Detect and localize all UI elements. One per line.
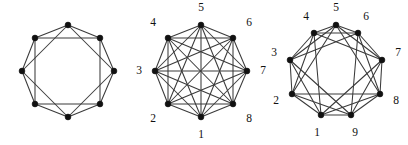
graph-edge bbox=[358, 33, 382, 60]
vertex-label: 1 bbox=[198, 128, 204, 140]
graph-vertex bbox=[111, 68, 117, 74]
graph-vertex bbox=[311, 30, 317, 36]
graph-vertex bbox=[355, 30, 361, 36]
graph-vertex bbox=[165, 35, 171, 41]
vertex-label: 6 bbox=[246, 16, 252, 28]
vertex-label: 7 bbox=[395, 46, 401, 58]
graph-edge bbox=[22, 71, 68, 117]
vertex-label: 3 bbox=[271, 46, 277, 58]
graph-edge bbox=[68, 71, 114, 117]
figure-3-edge-group bbox=[290, 25, 382, 115]
graph-vertex bbox=[348, 112, 354, 118]
graph-vertex bbox=[152, 68, 158, 74]
graph-vertex bbox=[318, 112, 324, 118]
graph-edge bbox=[22, 71, 35, 104]
graph-vertex bbox=[379, 57, 385, 63]
vertex-label: 6 bbox=[363, 10, 369, 22]
graph-edge bbox=[351, 94, 380, 115]
three-graph-figure-panel: 12345678 123456789 bbox=[0, 0, 408, 145]
vertex-label: 8 bbox=[246, 112, 252, 124]
graph-edge bbox=[35, 25, 68, 38]
graph-vertex bbox=[97, 35, 103, 41]
graph-edge bbox=[100, 38, 114, 71]
graph-vertex bbox=[65, 114, 71, 120]
vertex-label: 5 bbox=[198, 1, 204, 13]
vertex-label: 4 bbox=[303, 10, 309, 22]
figure-1-svg bbox=[0, 0, 133, 145]
graph-vertex bbox=[19, 68, 25, 74]
figure-1-vertex-group bbox=[19, 22, 117, 120]
graph-vertex bbox=[377, 91, 383, 97]
graph-vertex bbox=[289, 91, 295, 97]
graph-edge bbox=[22, 38, 35, 71]
vertex-label: 8 bbox=[393, 94, 399, 106]
figure-2-labeled-k8-graph: 12345678 bbox=[133, 0, 270, 145]
vertex-label: 2 bbox=[150, 112, 156, 124]
graph-vertex bbox=[198, 114, 204, 120]
graph-vertex bbox=[244, 68, 250, 74]
graph-vertex bbox=[97, 101, 103, 107]
graph-vertex bbox=[333, 22, 339, 28]
graph-edge bbox=[292, 94, 321, 115]
graph-edge bbox=[100, 71, 114, 104]
graph-edge bbox=[292, 33, 314, 94]
figure-1-unlabeled-octagon-graph bbox=[0, 0, 133, 145]
vertex-label: 1 bbox=[314, 126, 320, 138]
graph-edge bbox=[68, 25, 100, 38]
vertex-label: 9 bbox=[352, 126, 358, 138]
graph-edge bbox=[290, 60, 292, 94]
graph-vertex bbox=[65, 22, 71, 28]
graph-edge bbox=[68, 104, 100, 117]
figure-3-labeled-nine-vertex-graph: 123456789 bbox=[266, 0, 408, 145]
graph-edge bbox=[68, 25, 114, 71]
graph-vertex bbox=[32, 35, 38, 41]
vertex-label: 2 bbox=[273, 94, 279, 106]
graph-vertex bbox=[287, 57, 293, 63]
vertex-label: 3 bbox=[136, 64, 142, 76]
graph-edge bbox=[380, 60, 382, 94]
graph-edge bbox=[22, 25, 68, 71]
graph-vertex bbox=[230, 101, 236, 107]
graph-vertex bbox=[230, 35, 236, 41]
graph-edge bbox=[290, 33, 314, 60]
graph-vertex bbox=[32, 101, 38, 107]
figure-2-svg: 12345678 bbox=[133, 0, 270, 145]
graph-vertex bbox=[165, 101, 171, 107]
graph-vertex bbox=[198, 22, 204, 28]
graph-edge bbox=[314, 25, 336, 33]
figure-3-svg: 123456789 bbox=[266, 0, 408, 145]
vertex-label: 4 bbox=[150, 16, 156, 28]
vertex-label: 5 bbox=[333, 1, 339, 13]
graph-edge bbox=[358, 33, 380, 94]
graph-edge bbox=[336, 25, 358, 33]
graph-edge bbox=[35, 104, 68, 117]
